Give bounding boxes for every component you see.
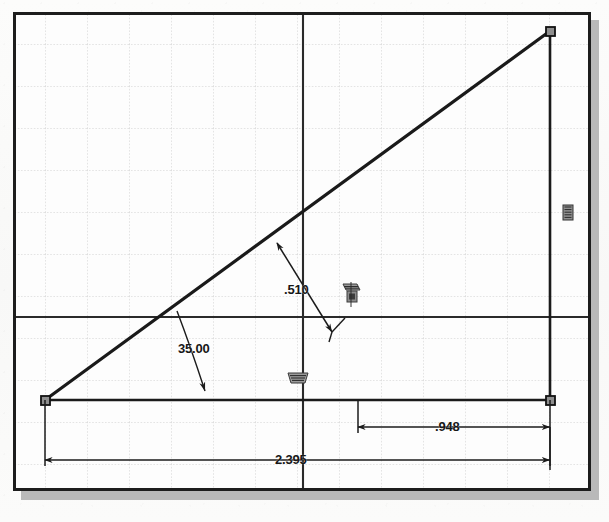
dim-offset-tail (332, 318, 345, 332)
hypotenuse-line[interactable] (45, 31, 550, 400)
dim-948-value[interactable]: .948 (435, 419, 460, 434)
dim-offset-tail-2 (329, 332, 332, 342)
sketch-canvas-window[interactable]: .510 35.00 .948 2.395 (13, 12, 591, 491)
dim-offset-value[interactable]: .510 (284, 282, 309, 297)
sketch-geometry-layer[interactable] (16, 15, 588, 488)
constraint-symbol-icon[interactable] (286, 371, 310, 387)
dim-angle-value[interactable]: 35.00 (178, 341, 210, 356)
edge-constraint-icon[interactable] (561, 203, 575, 222)
vertex-handle-top-right[interactable] (546, 27, 555, 36)
pointer-cursor-icon[interactable] (338, 281, 364, 309)
dim-2395-value[interactable]: 2.395 (275, 452, 307, 467)
screenshot-root: .510 35.00 .948 2.395 (0, 0, 609, 522)
